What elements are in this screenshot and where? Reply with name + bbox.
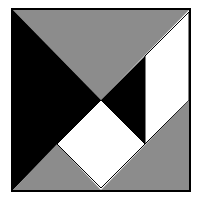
tangram-diagram [0,0,201,205]
